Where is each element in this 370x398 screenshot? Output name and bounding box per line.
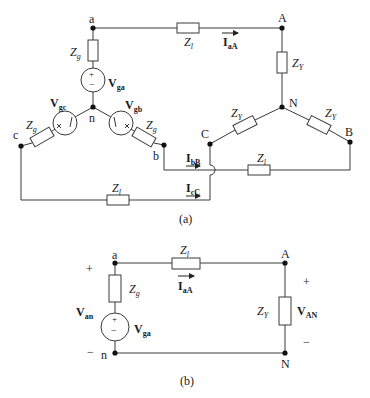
node-a	[90, 25, 95, 30]
caption-b: (b)	[180, 375, 194, 387]
label-zl-a: Zl	[184, 36, 193, 51]
label-vga: Vga	[108, 77, 125, 92]
label-node-B: B	[345, 126, 353, 138]
circuit-diagram	[0, 0, 370, 398]
node-N-b	[282, 350, 287, 355]
label-zl-c: Zl	[112, 182, 121, 197]
label-iaA-part-b: IaA	[178, 280, 192, 295]
vAN-plus-sign: +	[303, 276, 310, 288]
resistor-zg-a	[88, 40, 98, 61]
label-node-n: n	[89, 112, 95, 124]
label-vAN: VAN	[297, 305, 317, 320]
resistor-zg-b-part	[109, 275, 121, 302]
van-plus-sign: +	[86, 263, 93, 275]
vga-b-plus-sign: +	[112, 315, 117, 324]
label-van: Van	[76, 306, 93, 321]
label-vga-part-b: Vga	[134, 323, 151, 338]
node-C	[207, 141, 212, 146]
resistor-zy-b-part	[279, 297, 291, 325]
node-A	[279, 25, 284, 30]
label-node-N-b: N	[281, 358, 290, 370]
node-B	[347, 139, 352, 144]
vga-b-minus-sign: −	[111, 326, 117, 336]
resistor-zl-b-part	[172, 258, 200, 269]
label-node-a-b: a	[112, 249, 117, 261]
label-zg-a: Zg	[70, 46, 81, 61]
node-N	[279, 104, 284, 109]
label-node-c: c	[13, 129, 18, 141]
vga-plus-sign: +	[89, 70, 94, 79]
resistor-zy-a	[277, 52, 287, 73]
label-zl-part-b: Zl	[180, 244, 189, 259]
label-icC: IcC	[186, 182, 200, 197]
node-n-b	[112, 350, 117, 355]
node-n	[90, 104, 95, 109]
label-vgb: Vgb	[125, 99, 142, 114]
label-node-C: C	[201, 128, 209, 140]
label-zy-c: ZY	[231, 107, 242, 122]
node-c	[18, 143, 23, 148]
label-node-N: N	[289, 97, 298, 109]
label-zy-part-b: ZY	[257, 305, 268, 320]
label-zg-b: Zg	[146, 119, 157, 134]
label-zg-part-b: Zg	[129, 283, 140, 298]
source-vgc	[53, 111, 77, 135]
node-A-b	[282, 260, 287, 265]
label-zy-b: ZY	[325, 107, 336, 122]
label-zl-b: Zl	[257, 152, 266, 167]
label-node-b: b	[153, 150, 159, 162]
resistor-zl-a	[177, 23, 199, 33]
label-node-A-b: A	[281, 248, 290, 260]
caption-a: (a)	[179, 213, 192, 225]
label-node-A: A	[278, 12, 287, 24]
label-vgc: Vgc	[50, 97, 66, 112]
label-ibB: IbB	[186, 152, 200, 167]
node-b	[161, 142, 166, 147]
vga-minus-sign: −	[89, 80, 95, 90]
label-zg-c: Zg	[26, 119, 37, 134]
label-node-a: a	[89, 13, 94, 25]
label-iaA: IaA	[223, 36, 237, 51]
source-vgb	[109, 111, 133, 135]
label-zy-a: ZY	[292, 57, 303, 72]
vAN-minus-sign: −	[303, 336, 310, 348]
van-minus-sign: −	[87, 346, 94, 358]
label-node-n-b: n	[101, 349, 107, 361]
